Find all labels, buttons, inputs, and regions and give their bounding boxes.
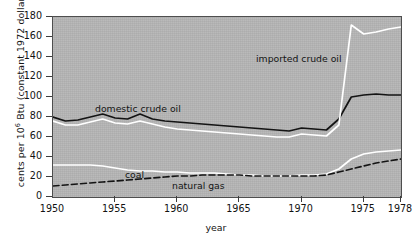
y-tick-label: 120 xyxy=(8,71,42,80)
x-tick-label: 1970 xyxy=(279,203,323,214)
y-tick-mark xyxy=(46,116,52,117)
y-tick-mark xyxy=(46,76,52,77)
x-tick-mark xyxy=(176,196,177,202)
x-tick-mark xyxy=(400,196,401,202)
y-tick-label: 80 xyxy=(8,111,42,120)
x-tick-label: 1965 xyxy=(216,203,260,214)
x-tick-label: 1960 xyxy=(154,203,198,214)
figure: cents per 106 Btu (constant 1972 dollars… xyxy=(0,0,420,241)
y-tick-label: 20 xyxy=(8,171,42,180)
x-tick-label: 1955 xyxy=(92,203,136,214)
y-tick-label: 100 xyxy=(8,91,42,100)
y-tick-mark xyxy=(46,96,52,97)
y-tick-mark xyxy=(46,156,52,157)
x-axis-label-text: year xyxy=(206,222,227,233)
x-tick-mark xyxy=(363,196,364,202)
series-line-coal xyxy=(53,150,401,176)
series-label-imported-crude-oil: imported crude oil xyxy=(256,53,342,64)
y-tick-mark xyxy=(46,136,52,137)
y-tick-mark xyxy=(46,176,52,177)
y-tick-label: 140 xyxy=(8,51,42,60)
y-tick-mark xyxy=(46,196,52,197)
x-tick-mark xyxy=(301,196,302,202)
y-axis-label-exponent: 6 xyxy=(14,123,22,127)
series-label-coal: coal xyxy=(125,169,144,180)
series-label-domestic-crude-oil: domestic crude oil xyxy=(95,103,181,114)
y-tick-label: 180 xyxy=(8,11,42,20)
y-tick-label: 0 xyxy=(8,191,42,200)
x-axis-label: year xyxy=(0,222,420,233)
series-line-imported-crude-oil xyxy=(53,25,401,137)
series-line-natural-gas xyxy=(53,159,401,186)
x-tick-mark xyxy=(114,196,115,202)
y-tick-mark xyxy=(46,56,52,57)
x-tick-label: 1950 xyxy=(30,203,74,214)
y-tick-mark xyxy=(46,36,52,37)
x-tick-mark xyxy=(238,196,239,202)
y-tick-label: 160 xyxy=(8,31,42,40)
y-tick-label: 60 xyxy=(8,131,42,140)
series-label-natural-gas: natural gas xyxy=(172,180,225,191)
plot-area: domestic crude oil imported crude oil co… xyxy=(52,16,402,198)
y-tick-mark xyxy=(46,16,52,17)
x-tick-label: 1978 xyxy=(378,203,420,214)
y-tick-label: 40 xyxy=(8,151,42,160)
